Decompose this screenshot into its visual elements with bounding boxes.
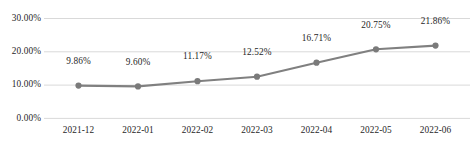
data-label: 9.86% [49,56,109,66]
y-tick-label: 30.00% [0,13,41,23]
chart-container: 30.00% 20.00% 10.00% 0.00% 2021-12 2022-… [0,0,475,154]
x-tick-label: 2022-06 [403,125,469,135]
x-tick-label: 2022-05 [343,125,409,135]
y-tick-label: 10.00% [0,79,41,89]
gridlines [44,19,470,119]
data-label: 16.71% [287,33,347,43]
x-tick-label: 2022-02 [165,125,231,135]
data-label: 11.17% [168,51,228,61]
data-label: 20.75% [346,20,406,30]
data-label: 21.86% [406,16,466,26]
y-tick-label: 20.00% [0,46,41,56]
x-tick-label: 2022-04 [284,125,350,135]
x-tick-label: 2022-03 [224,125,290,135]
data-label: 12.52% [227,47,287,57]
data-label: 9.60% [108,57,168,67]
y-tick-label: 0.00% [0,113,41,123]
x-tick-label: 2021-12 [46,125,112,135]
x-tick-label: 2022-01 [105,125,171,135]
